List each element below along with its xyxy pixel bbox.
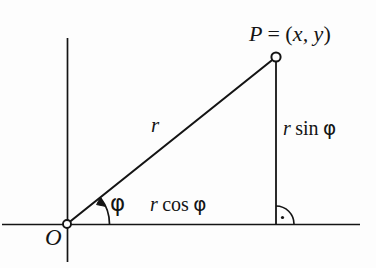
point-p-name: P xyxy=(249,21,263,46)
angle-label: φ xyxy=(110,192,125,215)
horizontal-leg-function: cos xyxy=(162,193,189,215)
point-p-marker xyxy=(271,52,280,61)
right-angle-arc xyxy=(276,206,294,224)
vertical-leg-phi: φ xyxy=(323,116,336,140)
origin-label: O xyxy=(45,226,62,249)
horizontal-leg-r: r xyxy=(150,193,158,215)
vertical-leg-r: r xyxy=(283,117,291,139)
point-p-label: P=(x,y) xyxy=(249,23,331,45)
horizontal-leg-phi: φ xyxy=(193,192,206,216)
radius-label: r xyxy=(151,115,159,136)
polar-coordinates-figure: P=(x,y) r rsinφ rcosφ φ O xyxy=(0,0,376,268)
point-p-comma: , xyxy=(303,21,309,46)
point-p-y: y xyxy=(313,21,323,46)
right-angle-dot xyxy=(281,216,284,219)
horizontal-leg-label: rcosφ xyxy=(150,194,206,214)
origin-marker xyxy=(63,220,71,228)
point-p-paren-close: ) xyxy=(324,21,332,46)
point-p-paren-open: ( xyxy=(285,21,293,46)
point-p-x: x xyxy=(293,21,303,46)
vertical-leg-label: rsinφ xyxy=(283,118,336,138)
point-p-equals: = xyxy=(268,21,281,46)
vertical-leg-function: sin xyxy=(295,117,318,139)
